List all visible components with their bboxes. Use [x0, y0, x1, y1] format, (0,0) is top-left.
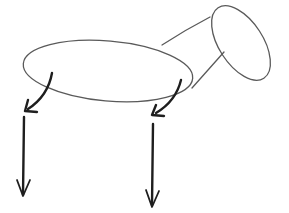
- left-curved-arrow: [25, 73, 52, 112]
- body-ellipse: [21, 34, 196, 109]
- sketch-canvas: [0, 0, 289, 213]
- right-curved-arrow: [152, 80, 181, 116]
- neck-upper-line: [162, 17, 210, 45]
- head-ellipse: [200, 0, 283, 90]
- left-down-arrow: [17, 117, 30, 196]
- right-down-arrow: [146, 124, 159, 207]
- neck-lower-line: [192, 52, 224, 88]
